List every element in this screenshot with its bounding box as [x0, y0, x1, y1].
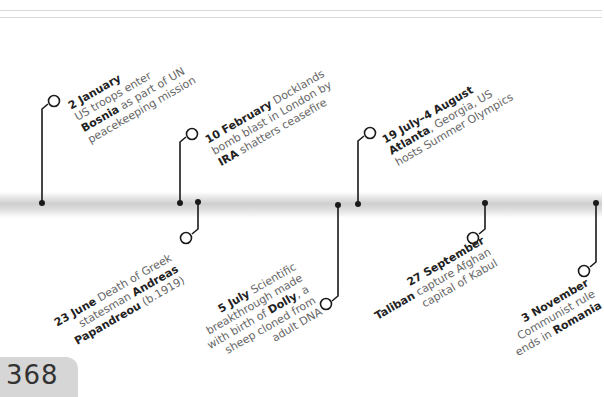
page-number: 368: [6, 360, 59, 390]
